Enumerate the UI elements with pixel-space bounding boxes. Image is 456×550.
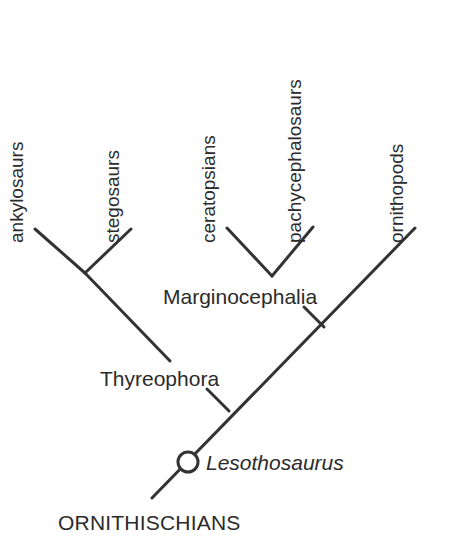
tip-label-ankylosaurs: ankylosaurs — [7, 142, 26, 243]
branch-thyreophora-stem — [85, 273, 170, 361]
cladogram-diagram: ankylosaurs stegosaurs ceratopsians pach… — [0, 0, 456, 550]
clade-label-thyreophora: Thyreophora — [100, 368, 219, 389]
tip-label-ceratopsians: ceratopsians — [199, 135, 218, 243]
tip-label-ornithopods: ornithopods — [387, 144, 406, 243]
tick-marginocephalia — [304, 307, 324, 327]
clade-label-marginocephalia: Marginocephalia — [163, 286, 317, 307]
root-label-ornithischians: ORNITHISCHIANS — [58, 512, 240, 533]
tick-thyreophora — [207, 389, 229, 411]
branch-ankylosaurs — [35, 229, 85, 273]
lesothosaurus-node-circle — [178, 452, 198, 472]
tip-label-stegosaurs: stegosaurs — [103, 150, 122, 243]
branch-ceratopsians — [227, 228, 272, 276]
species-label-lesothosaurus: Lesothosaurus — [206, 452, 344, 473]
tip-label-pachycephalosaurs: pachycephalosaurs — [285, 79, 304, 243]
